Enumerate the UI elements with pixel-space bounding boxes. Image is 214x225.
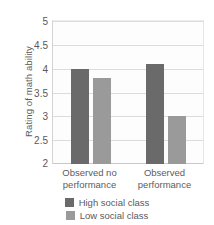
x-axis-category-labels: Observed noperformanceObservedperformanc… [52,167,204,195]
y-tick-label: 4 [42,64,48,75]
legend-label: High social class [79,197,150,208]
y-tick-label: 4.5 [34,40,48,51]
y-axis-title: Rating of math ability [23,17,34,167]
legend-item: High social class [65,197,150,208]
legend-swatch-icon [66,211,75,220]
chart-legend: High social classLow social class [0,197,214,221]
bar [93,78,111,164]
bar [71,69,89,164]
x-axis-category-line: Observed [119,167,210,179]
y-tick-label: 2.5 [34,135,48,146]
x-axis-category-line: performance [119,179,210,191]
legend-label: Low social class [80,210,149,221]
bar-group-container [53,21,203,164]
x-axis-category-label: Observedperformance [119,167,210,190]
legend-item: Low social class [66,210,149,221]
y-tick-label: 5 [42,16,48,27]
y-tick-label: 3 [42,111,48,122]
bar [168,116,186,164]
bar-chart-figure: Rating of math ability 54.543.532.52 Obs… [0,0,214,225]
y-tick-label: 3.5 [34,88,48,99]
plot-area: 54.543.532.52 [52,20,204,164]
legend-swatch-icon [65,198,74,207]
bar [146,64,164,164]
